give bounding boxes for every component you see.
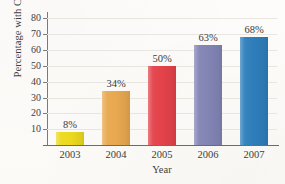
y-tick: 80	[0, 13, 41, 23]
y-tick-label: 30	[19, 93, 41, 103]
gridline	[47, 34, 277, 35]
x-tick-label: 2003	[47, 149, 93, 161]
x-axis-title: Year	[47, 164, 277, 176]
bar: 50%	[148, 66, 176, 145]
y-tick-label: 40	[19, 77, 41, 87]
bar-value-label: 34%	[106, 78, 125, 89]
x-tick-label: 2007	[231, 149, 277, 161]
x-tick-label: 2005	[139, 149, 185, 161]
y-tick: 20	[0, 108, 41, 118]
y-tick: 70	[0, 29, 41, 39]
y-tick-label: 50	[19, 61, 41, 71]
bar: 63%	[194, 45, 222, 145]
y-tick: 40	[0, 77, 41, 87]
y-tick-label: 80	[19, 13, 41, 23]
bar-shading	[56, 132, 84, 145]
x-axis-line	[43, 145, 279, 146]
y-tick: 50	[0, 61, 41, 71]
bar: 34%	[102, 91, 130, 145]
bar: 8%	[56, 132, 84, 145]
bar-chart: Percentage with Cameras 1020304050607080…	[0, 0, 285, 184]
plot-area: 8%34%50%63%68%	[47, 12, 277, 145]
x-tick-label: 2004	[93, 149, 139, 161]
bar-value-label: 68%	[244, 24, 263, 35]
gridline	[47, 18, 277, 19]
y-tick: 10	[0, 124, 41, 134]
y-tick: 30	[0, 93, 41, 103]
y-tick-label: 20	[19, 108, 41, 118]
x-tick-label: 2006	[185, 149, 231, 161]
bar-shading	[240, 37, 268, 145]
bar-shading	[148, 66, 176, 145]
y-tick-label: 60	[19, 45, 41, 55]
bar-value-label: 63%	[198, 32, 217, 43]
y-tick-label: 10	[19, 124, 41, 134]
bar-shading	[102, 91, 130, 145]
y-tick-label: 70	[19, 29, 41, 39]
bar: 68%	[240, 37, 268, 145]
bar-value-label: 50%	[152, 53, 171, 64]
bar-value-label: 8%	[63, 119, 77, 130]
bar-shading	[194, 45, 222, 145]
y-tick: 60	[0, 45, 41, 55]
